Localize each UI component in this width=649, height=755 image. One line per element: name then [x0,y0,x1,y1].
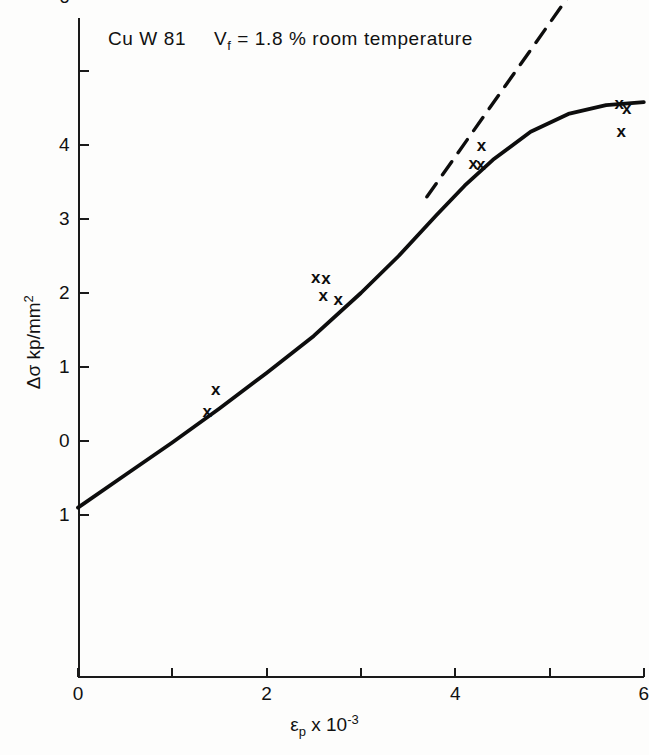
fitted-solid-curve [78,102,644,508]
figure-canvas: Cu W 81 Vf = 1.8 % room temperature Δσ k… [0,0,649,755]
extrapolated-dashed-line [427,0,576,197]
curves-layer [0,0,649,755]
